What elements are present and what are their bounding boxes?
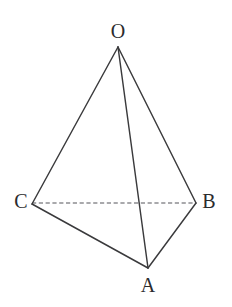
edge-o-b <box>118 47 196 203</box>
vertex-label-a: A <box>141 275 155 295</box>
vertex-label-c: C <box>14 191 27 211</box>
tetrahedron-figure: O C B A <box>0 0 232 307</box>
vertex-label-b: B <box>202 191 215 211</box>
edge-a-b <box>148 203 196 268</box>
tetrahedron-svg-canvas <box>0 0 232 307</box>
edge-o-c <box>32 47 118 204</box>
vertex-label-o: O <box>111 21 125 41</box>
edge-c-a <box>32 204 148 268</box>
edge-o-a <box>118 47 148 268</box>
